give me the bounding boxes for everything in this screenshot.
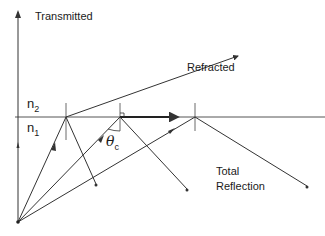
transmitted-mid-arrow-icon: [17, 142, 20, 148]
incident-arrow-3-icon: [168, 128, 175, 134]
label-theta-c: θc: [106, 133, 119, 149]
partial-reflected-ray: [66, 117, 96, 184]
incident-ray-1: [18, 117, 66, 222]
total-reflected-ray: [195, 117, 307, 186]
label-n1: n1: [27, 120, 39, 135]
reflected-tip-2: [186, 189, 189, 192]
light-source-point: [16, 220, 20, 224]
label-total-reflection-2: Reflection: [216, 180, 265, 192]
n2-subscript: 2: [34, 104, 39, 114]
reflected-tip-3: [306, 186, 309, 189]
ray-diagram: [0, 0, 325, 236]
reflected-tip-1: [95, 184, 98, 187]
n1-subscript: 1: [34, 128, 39, 138]
theta-subscript: c: [114, 142, 119, 152]
critical-angle-arc: [108, 129, 120, 131]
label-transmitted: Transmitted: [35, 10, 93, 22]
transmitted-arrow-icon: [15, 10, 21, 18]
label-refracted: Refracted: [187, 61, 235, 73]
label-n2: n2: [27, 96, 39, 111]
label-total-reflection-1: Total: [216, 165, 239, 177]
